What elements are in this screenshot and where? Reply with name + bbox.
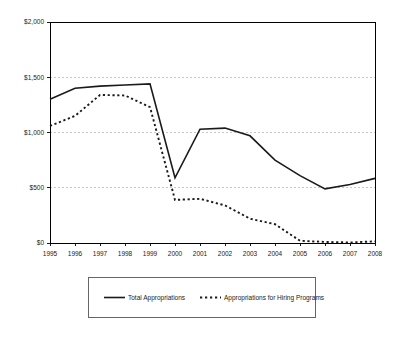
chart-legend: Total AppropriationsAppropriations for H…	[88, 277, 325, 317]
line-chart: $0$500$1,000$1,500$2,000 199519961997199…	[0, 0, 403, 341]
y-tick-label: $1,500	[24, 74, 44, 81]
x-tick-label: 2001	[193, 250, 208, 257]
x-tick-label: 1995	[43, 250, 58, 257]
x-tick-label: 2005	[293, 250, 308, 257]
y-tick-label: $2,000	[24, 18, 44, 25]
legend-label-1: Total Appropriations	[128, 294, 186, 302]
x-tick-label: 2003	[243, 250, 258, 257]
x-tick-label: 2000	[168, 250, 183, 257]
x-tick-label: 1996	[68, 250, 83, 257]
x-tick-label: 2007	[343, 250, 358, 257]
y-tick-label: $0	[37, 239, 45, 246]
x-tick-label: 2008	[368, 250, 383, 257]
x-tick-label: 1998	[118, 250, 133, 257]
chart-container: $0$500$1,000$1,500$2,000 199519961997199…	[0, 0, 403, 341]
x-tick-label: 1997	[93, 250, 108, 257]
x-tick-label: 2002	[218, 250, 233, 257]
y-tick-label: $500	[30, 184, 45, 191]
legend-label-2: Appropriations for Hiring Programs	[224, 294, 325, 302]
y-tick-label: $1,000	[24, 129, 44, 136]
x-tick-label: 2006	[318, 250, 333, 257]
x-tick-label: 1999	[143, 250, 158, 257]
x-tick-label: 2004	[268, 250, 283, 257]
